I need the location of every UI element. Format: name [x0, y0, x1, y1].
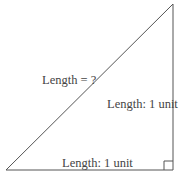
- vertical-side-label: Length: 1 unit: [107, 97, 178, 111]
- base-label: Length: 1 unit: [62, 156, 133, 170]
- right-angle-marker: [164, 161, 173, 170]
- right-triangle: [6, 4, 173, 170]
- hypotenuse-label: Length = ?: [42, 73, 97, 87]
- triangle-diagram: Length = ? Length: 1 unit Length: 1 unit: [0, 0, 179, 182]
